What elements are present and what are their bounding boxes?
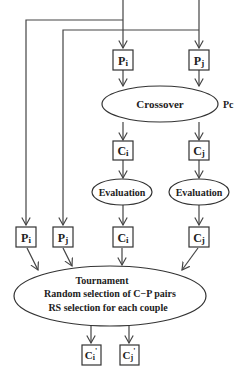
child-box-cj: Cj	[189, 141, 209, 160]
parent-box-pi-side: Pi	[16, 227, 36, 247]
evaluation-node-right: Evaluation	[169, 179, 229, 205]
evaluated-child-box-ci: Ci	[113, 227, 133, 247]
svg-text:Crossover: Crossover	[136, 98, 184, 110]
svg-text:RS selection for each couple: RS selection for each couple	[48, 302, 168, 313]
evaluation-node-left: Evaluation	[92, 179, 152, 205]
flowchart: Pi Pj Crossover Pc Ci Cj Evaluation Eval…	[0, 0, 244, 376]
evaluated-child-box-cj: Cj	[189, 227, 209, 247]
parent-box-pi-top: Pi	[113, 50, 133, 70]
svg-text:Evaluation: Evaluation	[99, 187, 146, 198]
output-box-cj-prime: Cj'	[120, 345, 139, 365]
output-box-ci-prime: Ci'	[82, 345, 101, 365]
svg-text:Tournament: Tournament	[76, 275, 130, 286]
tournament-node: Tournament Random selection of C−P pairs…	[14, 266, 206, 326]
crossover-node: Crossover	[102, 86, 218, 122]
child-box-ci: Ci	[113, 141, 133, 160]
svg-text:Evaluation: Evaluation	[176, 187, 223, 198]
crossover-probability-label: Pc	[223, 99, 234, 110]
parent-box-pj-top: Pj	[189, 50, 209, 70]
svg-text:Random selection of C−P pairs: Random selection of C−P pairs	[44, 288, 176, 299]
parent-box-pj-side: Pj	[53, 227, 73, 247]
